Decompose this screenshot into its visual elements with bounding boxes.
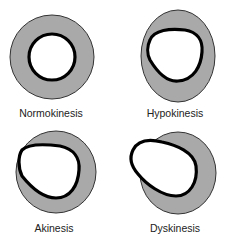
panel-label: Dyskinesis <box>150 222 200 234</box>
panel-label: Akinesis <box>34 222 73 234</box>
panel-label: Hypokinesis <box>147 107 204 119</box>
panel-dyskinesis: Dyskinesis <box>131 132 216 234</box>
panel-hypokinesis: Hypokinesis <box>141 10 215 119</box>
panel-normokinesis: Normokinesis <box>10 15 94 119</box>
panel-akinesis: Akinesis <box>16 131 96 234</box>
endocardial-border <box>29 34 75 80</box>
panel-label: Normokinesis <box>19 107 83 119</box>
wall-motion-diagram: Normokinesis Hypokinesis Akinesis Dyskin… <box>0 0 226 240</box>
